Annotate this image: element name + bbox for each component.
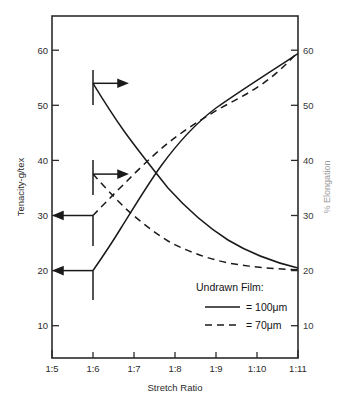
legend-label-solid: = 100μm (246, 301, 288, 313)
right-tick-label: 10 (303, 320, 314, 331)
y-axis-title: Tenacity-g/tex (15, 157, 26, 216)
legend-title: Undrawn Film: (196, 281, 264, 293)
x-tick-label: 1:9 (209, 363, 222, 374)
legend-label-dashed: = 70μm (246, 319, 282, 331)
left-tick-label: 20 (37, 265, 48, 276)
left-tick-label: 30 (37, 210, 48, 221)
x-axis-title: Stretch Ratio (148, 382, 203, 393)
x-tick-label: 1:11 (289, 363, 307, 374)
left-tick-label: 50 (37, 100, 48, 111)
chart-svg: 60 50 40 30 20 10 60 50 40 30 20 10 1:5 … (0, 0, 345, 407)
x-tick-label: 1:7 (127, 363, 140, 374)
y2-axis-title: % Elongation (322, 160, 332, 213)
x-tick-label: 1:5 (45, 363, 58, 374)
right-tick-label: 40 (303, 155, 314, 166)
chart-figure: 60 50 40 30 20 10 60 50 40 30 20 10 1:5 … (0, 0, 345, 407)
x-tick-label: 1:10 (248, 363, 267, 374)
left-tick-label: 10 (37, 320, 48, 331)
right-tick-label: 50 (303, 100, 314, 111)
x-tick-label: 1:8 (168, 363, 181, 374)
right-tick-label: 30 (303, 210, 314, 221)
left-tick-label: 40 (37, 155, 48, 166)
right-tick-label: 20 (303, 265, 314, 276)
x-tick-label: 1:6 (86, 363, 99, 374)
left-tick-label: 60 (37, 45, 48, 56)
right-tick-label: 60 (303, 45, 314, 56)
